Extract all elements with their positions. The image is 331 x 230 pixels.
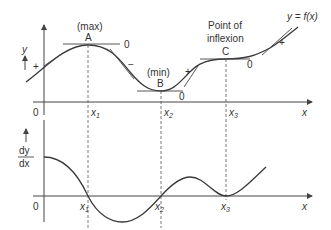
curve-label: y = f(x) (286, 11, 318, 22)
point-C-label: C (222, 46, 229, 57)
gradient-zero-B: 0 (179, 91, 185, 102)
top-graph: y 0 x (max) A 0 (min) B 0 Point of infle… (21, 11, 318, 228)
tangent-positive-1 (44, 55, 60, 66)
sign-plus-1: + (33, 61, 39, 72)
stationary-points-diagram: y 0 x (max) A 0 (min) B 0 Point of infle… (0, 0, 331, 230)
bottom-x3-label: x3 (220, 201, 230, 213)
bottom-graph: dy dx 0 x x1 x2 x3 (18, 120, 312, 222)
top-x-axis-label: x (301, 107, 308, 118)
min-caption: (min) (147, 67, 170, 78)
bottom-origin-label: 0 (33, 201, 39, 212)
top-x1-label: x1 (90, 107, 100, 119)
top-x2-label: x2 (163, 107, 173, 119)
top-x3-label: x3 (228, 107, 238, 119)
inflexion-caption-line2: inflexion (207, 33, 244, 44)
inflexion-caption-line1: Point of (208, 20, 242, 31)
bottom-x1-label: x1 (79, 201, 89, 213)
sign-plus-2: + (185, 66, 191, 77)
bottom-x-axis-label: x (301, 201, 308, 212)
top-origin-label: 0 (33, 107, 39, 118)
bottom-x2-label: x2 (154, 201, 164, 213)
dydx-numerator: dy (19, 145, 30, 156)
sign-plus-3: + (279, 37, 285, 48)
tangent-positive-3 (262, 28, 292, 55)
gradient-zero-A: 0 (124, 39, 130, 50)
point-B-label: B (157, 78, 164, 89)
max-caption: (max) (77, 21, 103, 32)
dydx-denominator: dx (19, 158, 30, 169)
curve-dydx (44, 157, 266, 222)
top-y-axis-label: y (21, 44, 28, 55)
sign-minus: − (128, 59, 134, 70)
point-A-label: A (85, 32, 92, 43)
gradient-zero-C: 0 (247, 59, 253, 70)
